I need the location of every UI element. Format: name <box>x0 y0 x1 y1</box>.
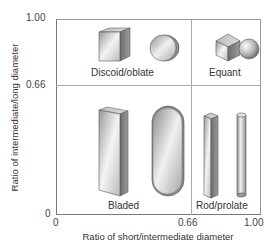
cube-shape-icon <box>216 34 240 61</box>
square-rod-shape-icon <box>204 113 218 198</box>
quadrant-label-rod: Rod/prolate <box>196 200 248 211</box>
quadrant-label-bladed: Bladed <box>108 200 139 211</box>
quadrant-label-equant: Equant <box>209 67 241 78</box>
sphere-shape-icon <box>239 39 259 59</box>
tall-slab-shape-icon <box>99 107 128 196</box>
cylinder-rod-shape-icon <box>237 113 246 197</box>
slab-shape-icon <box>99 28 130 61</box>
quadrant-label-discoid: Discoid/oblate <box>91 67 154 78</box>
capsule-shape-icon <box>152 106 184 196</box>
disc-shape-icon <box>150 35 179 61</box>
